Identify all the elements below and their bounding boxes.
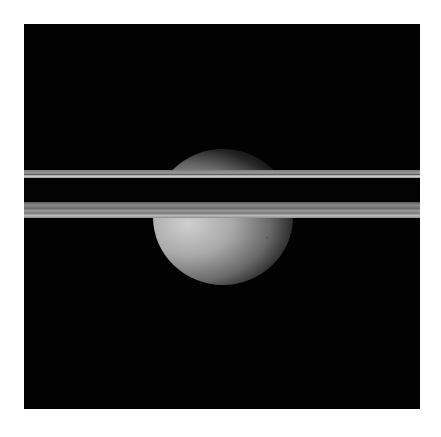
faint-star <box>266 237 268 239</box>
upper-ring-band <box>24 170 420 178</box>
space-image <box>24 24 420 409</box>
ring-gap <box>24 177 420 202</box>
lower-ring-band <box>24 202 420 218</box>
